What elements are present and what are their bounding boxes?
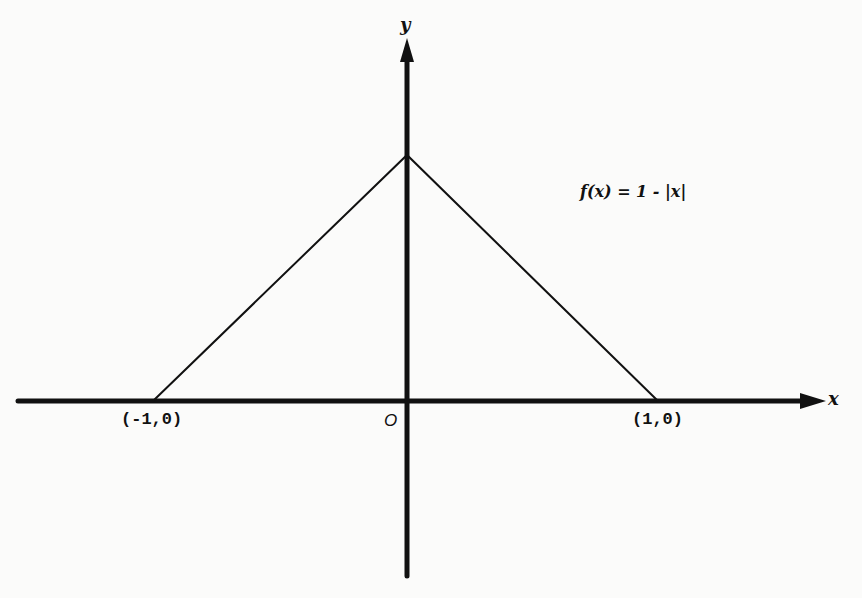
origin-label: O bbox=[384, 412, 397, 429]
point-label-pos-one: (1,0) bbox=[632, 411, 683, 428]
x-axis-label: x bbox=[828, 390, 839, 408]
function-annotation: f(x) = 1 - |x| bbox=[580, 184, 686, 201]
function-graph: y x O (-1,0) (1,0) f(x) = 1 - |x| bbox=[0, 0, 862, 598]
y-axis-label: y bbox=[400, 16, 410, 34]
graph-canvas bbox=[0, 0, 862, 598]
x-axis-arrow-icon bbox=[800, 393, 826, 409]
y-axis-arrow-icon bbox=[400, 38, 414, 62]
function-annotation-text: f(x) = 1 - |x| bbox=[580, 182, 686, 201]
point-label-neg-one: (-1,0) bbox=[121, 411, 182, 428]
